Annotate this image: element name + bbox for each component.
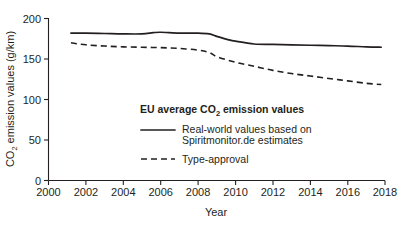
y-axis-title-pre: CO [4, 150, 16, 167]
y-tick-label: 150 [23, 53, 41, 65]
x-tick-label: 2010 [223, 186, 247, 198]
co2-emissions-line-chart: 200 150 100 50 0 2000 2002 2004 2006 200… [0, 0, 400, 228]
chart-svg: 200 150 100 50 0 2000 2002 2004 2006 200… [0, 0, 400, 228]
x-tick-label: 2008 [186, 186, 210, 198]
legend-label-type-approval: Type-approval [182, 153, 249, 165]
series-line-type-approval [71, 43, 381, 85]
x-tick-label: 2000 [36, 186, 60, 198]
x-tick-label: 2012 [261, 186, 285, 198]
y-axis-title-post: emission values (g/km) [4, 31, 16, 147]
y-axis-ticks [44, 19, 49, 181]
x-tick-label: 2002 [74, 186, 98, 198]
x-tick-label: 2016 [336, 186, 360, 198]
y-tick-label: 50 [29, 134, 41, 146]
legend-title-pre: EU average CO [140, 103, 216, 115]
legend-title-post: emission values [220, 103, 304, 115]
x-axis-tick-labels: 2000 2002 2004 2006 2008 2010 2012 2014 … [36, 186, 397, 198]
x-axis-title: Year [205, 206, 228, 218]
y-axis-title: CO2 emission values (g/km) [4, 31, 19, 167]
legend-title: EU average CO2 emission values [140, 103, 304, 118]
y-tick-label: 0 [35, 175, 41, 187]
x-tick-label: 2014 [298, 186, 322, 198]
chart-legend: EU average CO2 emission values Real-worl… [140, 103, 312, 165]
x-tick-label: 2018 [373, 186, 397, 198]
x-tick-label: 2006 [148, 186, 172, 198]
series-line-real-world [71, 32, 381, 47]
y-tick-label: 100 [23, 94, 41, 106]
y-axis-tick-labels: 200 150 100 50 0 [23, 13, 41, 187]
legend-label-real-world-line2: Spiritmonitor.de estimates [182, 134, 303, 146]
y-tick-label: 200 [23, 13, 41, 25]
x-axis-ticks [49, 181, 386, 186]
x-tick-label: 2004 [111, 186, 135, 198]
